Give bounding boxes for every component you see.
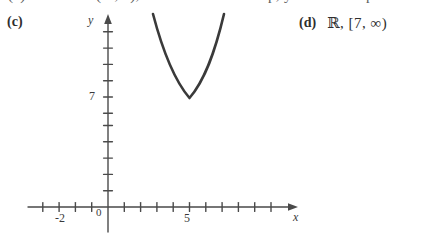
scanned-textbook-figure: (a) (-3, 5), p, y p (c) (d) ℝ, [7, ∞) <box>0 0 423 245</box>
parabola-curve <box>153 14 224 98</box>
x-tick-label-5: 5 <box>184 211 190 226</box>
parabola-graph: y x -2 0 5 7 <box>0 0 423 245</box>
x-tick-label-neg2: -2 <box>55 211 65 226</box>
y-tick-label-7: 7 <box>89 89 95 104</box>
y-axis-label: y <box>88 13 93 28</box>
y-axis-arrowhead <box>104 14 112 24</box>
origin-label: 0 <box>96 206 102 218</box>
x-axis-label: x <box>293 210 298 225</box>
graph-svg <box>0 0 423 245</box>
